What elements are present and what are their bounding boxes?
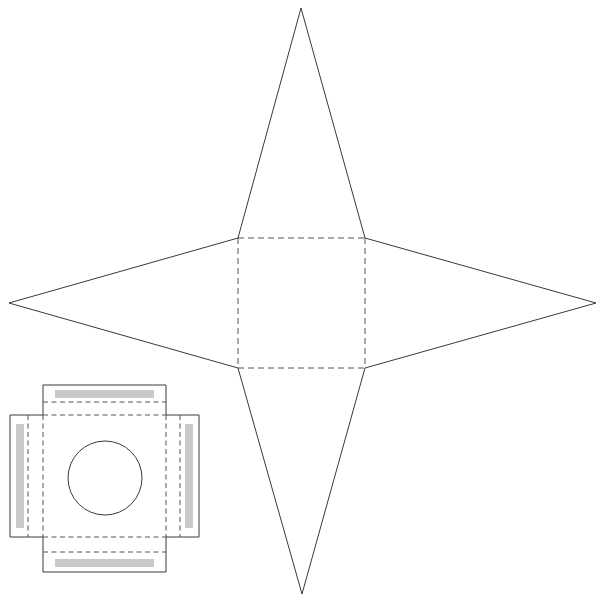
- glue-strip-right: [185, 424, 193, 528]
- papercraft-nets-canvas: [0, 0, 607, 603]
- glue-strip-left: [16, 424, 24, 528]
- glue-strip-bottom: [55, 559, 154, 567]
- glue-strip-top: [55, 390, 154, 398]
- circular-window-icon[interactable]: [68, 441, 142, 515]
